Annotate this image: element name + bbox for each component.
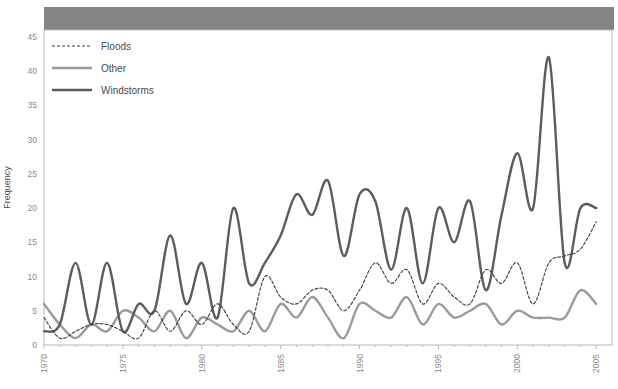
- y-axis-tick-label: 25: [28, 169, 38, 179]
- legend-label-floods: Floods: [101, 41, 131, 52]
- y-axis-tick-label: 10: [28, 272, 38, 282]
- legend-label-windstorms: Windstorms: [101, 85, 154, 96]
- y-axis-tick-label: 20: [28, 203, 38, 213]
- y-axis-tick-label: 45: [28, 32, 38, 42]
- x-axis-tick-label: 1970: [39, 354, 49, 373]
- y-axis-tick-label: 40: [28, 66, 38, 76]
- x-axis-tick-label: 1995: [433, 354, 443, 373]
- x-axis-tick-label: 1980: [197, 354, 207, 373]
- y-axis-tick-label: 0: [32, 340, 37, 350]
- x-axis-tick-label: 2005: [591, 354, 601, 373]
- header-band: [44, 7, 614, 30]
- y-axis-tick-label: 35: [28, 100, 38, 110]
- y-axis-tick-label: 30: [28, 135, 38, 145]
- x-axis-tick-label: 2000: [512, 354, 522, 373]
- legend-label-other: Other: [101, 63, 127, 74]
- y-axis-tick-label: 15: [28, 237, 38, 247]
- chart-figure: 051015202530354045Frequency1970197519801…: [0, 0, 618, 389]
- x-axis-tick-label: 1985: [276, 354, 286, 373]
- y-axis-title: Frequency: [2, 166, 12, 209]
- x-axis-tick-label: 1975: [118, 354, 128, 373]
- plot-background: [44, 30, 612, 345]
- frequency-line-chart: 051015202530354045Frequency1970197519801…: [0, 0, 618, 389]
- y-axis-tick-label: 5: [32, 306, 37, 316]
- x-axis-tick-label: 1990: [355, 354, 365, 373]
